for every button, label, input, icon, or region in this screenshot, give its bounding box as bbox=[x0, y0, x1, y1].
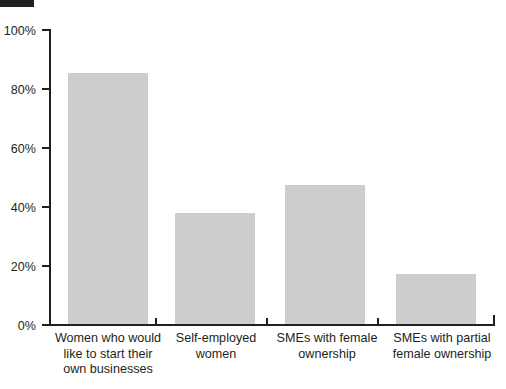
x-axis-category-label-3: SMEs with female ownership bbox=[272, 331, 382, 362]
x-axis-separator-tick-1 bbox=[155, 318, 157, 326]
bar-smes-with-female-ownership bbox=[285, 185, 365, 324]
y-axis-tick-label-80: 80% bbox=[11, 83, 36, 97]
tickmark bbox=[42, 29, 51, 31]
y-axis-tick-label-0: 0% bbox=[18, 319, 36, 333]
y-axis-tick-60: 60% bbox=[42, 147, 51, 149]
x-axis-end-tick bbox=[493, 315, 495, 326]
tickmark bbox=[42, 206, 51, 208]
x-axis-separator-tick-2 bbox=[266, 318, 268, 326]
y-axis-tick-label-60: 60% bbox=[11, 142, 36, 156]
y-axis-tick-20: 20% bbox=[42, 265, 51, 267]
y-axis-tick-label-100: 100% bbox=[4, 24, 36, 38]
y-axis-line bbox=[49, 29, 51, 326]
tickmark bbox=[42, 88, 51, 90]
x-axis-line bbox=[49, 324, 495, 326]
bar-chart-figure: 0% 20% 40% 60% 80% 100% Women who would … bbox=[0, 0, 506, 389]
x-axis-category-label-1: Women who would like to start their own … bbox=[54, 331, 162, 378]
y-axis-tick-0: 0% bbox=[42, 324, 51, 326]
corner-marker bbox=[0, 0, 34, 7]
bar-women-who-would-like-to-start-their-own-businesses bbox=[68, 73, 148, 324]
tickmark bbox=[42, 324, 51, 326]
tickmark bbox=[42, 147, 51, 149]
y-axis-tick-40: 40% bbox=[42, 206, 51, 208]
bar-smes-with-partial-female-ownership bbox=[396, 274, 476, 324]
y-axis-tick-80: 80% bbox=[42, 88, 51, 90]
x-axis-separator-tick-3 bbox=[377, 318, 379, 326]
tickmark bbox=[42, 265, 51, 267]
x-axis-category-label-2: Self-employed women bbox=[162, 331, 270, 362]
y-axis-tick-100: 100% bbox=[42, 29, 51, 31]
bar-self-employed-women bbox=[175, 213, 255, 324]
y-axis-tick-label-20: 20% bbox=[11, 260, 36, 274]
x-axis-category-label-4: SMEs with partial female ownership bbox=[383, 331, 501, 362]
y-axis-tick-label-40: 40% bbox=[11, 201, 36, 215]
